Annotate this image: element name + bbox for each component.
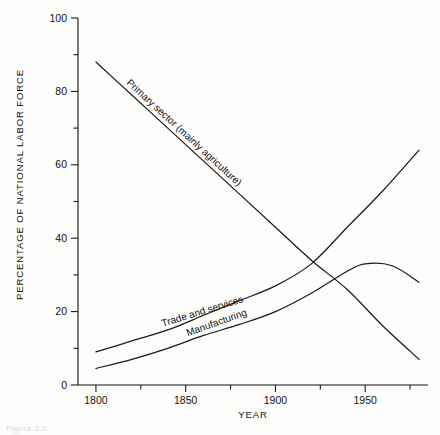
y-axis-title: PERCENTAGE OF NATIONAL LABOR FORCE [14,69,25,300]
figure-caption: Figure 2.2 [6,424,47,433]
line-chart-canvas: 020406080100 1800185019001950 PERCENTAGE… [0,0,440,435]
series-inline-labels: Primary sector (mainly agriculture)Trade… [125,77,249,338]
y-tick-label: 0 [61,379,67,391]
x-axis-tick-labels: 1800185019001950 [84,394,377,406]
y-tick-label: 80 [55,85,67,97]
x-tick-label: 1950 [353,394,377,406]
y-axis-ticks [71,18,78,385]
x-tick-label: 1850 [174,394,198,406]
x-axis-title: YEAR [238,409,267,420]
x-tick-label: 1800 [84,394,108,406]
series-line [96,62,419,359]
y-tick-label: 100 [49,12,67,24]
chart-figure: 020406080100 1800185019001950 PERCENTAGE… [0,0,440,435]
series-line [96,150,419,352]
y-tick-label: 60 [55,158,67,170]
x-tick-label: 1900 [264,394,288,406]
axes-group [78,18,428,385]
y-tick-label: 20 [55,305,67,317]
y-tick-label: 40 [55,232,67,244]
y-axis-tick-labels: 020406080100 [49,12,67,391]
series-line [96,263,419,368]
series-label: Primary sector (mainly agriculture) [125,77,244,188]
x-axis-ticks [96,385,410,392]
series-curves [96,62,419,368]
